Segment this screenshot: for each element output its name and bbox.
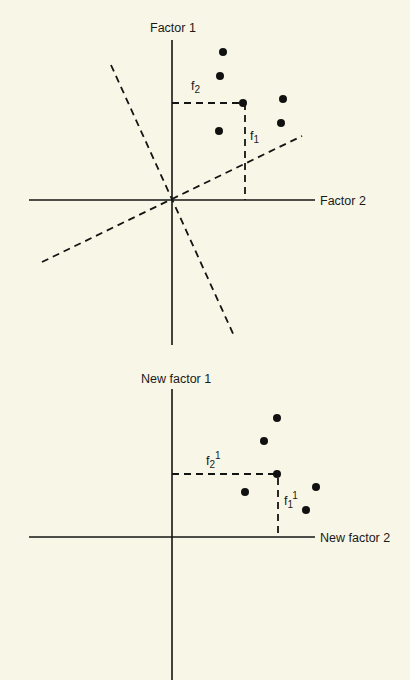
- factor-rotation-diagram: Factor 1 Factor 2 f2 f1 New factor 1 New…: [0, 0, 410, 680]
- data-point: [260, 437, 268, 445]
- data-point: [239, 99, 247, 107]
- new-factor-2-label: New factor 2: [320, 531, 390, 545]
- data-point: [312, 483, 320, 491]
- f1-label: f1: [250, 129, 259, 145]
- factor-1-label: Factor 1: [150, 21, 196, 35]
- data-point: [219, 48, 227, 56]
- f2-prime-label: f21: [206, 450, 221, 470]
- bottom-diagram: New factor 1 New factor 2 f21 f11: [29, 372, 390, 680]
- data-point: [277, 119, 285, 127]
- f1-prime-label: f11: [284, 490, 298, 510]
- f2-label: f2: [191, 79, 200, 95]
- data-point: [302, 506, 310, 514]
- data-point: [215, 127, 223, 135]
- data-point: [273, 414, 281, 422]
- data-point: [279, 95, 287, 103]
- data-point: [241, 488, 249, 496]
- rotated-axis-1: [111, 65, 235, 338]
- factor-2-label: Factor 2: [320, 194, 366, 208]
- data-point: [216, 72, 224, 80]
- top-diagram: Factor 1 Factor 2 f2 f1: [29, 21, 366, 345]
- new-factor-1-label: New factor 1: [141, 372, 211, 386]
- data-point: [273, 470, 281, 478]
